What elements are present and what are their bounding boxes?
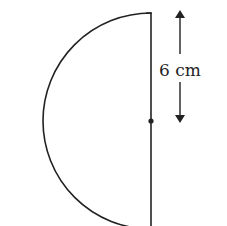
semicircle-arc: [43, 13, 151, 226]
semicircle-diagram: 6 cm: [0, 0, 227, 226]
center-dot: [148, 118, 153, 123]
dimension-label: 6 cm: [159, 60, 201, 80]
